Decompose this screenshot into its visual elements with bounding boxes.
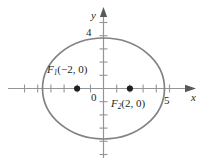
y-axis-label: y	[91, 10, 96, 21]
y-axis-tick-label-4: 4	[86, 27, 92, 38]
focus-2-letter: F	[111, 97, 118, 109]
y-axis-arrowhead	[100, 7, 107, 17]
x-axis-tick-label-5: 5	[164, 95, 170, 106]
focus-1-letter: F	[47, 63, 54, 75]
focus-1-dot	[74, 85, 80, 91]
focus-2-label: F2(2, 0)	[111, 98, 145, 111]
ellipse-figure: y x 4 0 5 F1(−2, 0) F2(2, 0)	[0, 0, 208, 166]
x-axis-label: x	[191, 92, 196, 103]
focus-1-label: F1(−2, 0)	[47, 64, 87, 77]
focus-1-coords: (−2, 0)	[57, 63, 87, 75]
origin-label: 0	[91, 92, 97, 103]
figure-canvas	[0, 0, 208, 166]
focus-2-dot	[127, 85, 133, 91]
focus-2-coords: (2, 0)	[121, 97, 145, 109]
